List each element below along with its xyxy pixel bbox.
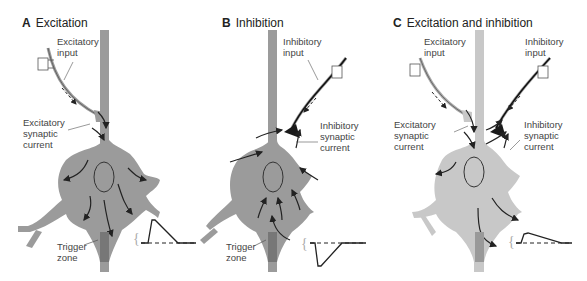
panel-b-title-text: Inhibition bbox=[236, 16, 284, 30]
cell-body bbox=[28, 140, 160, 272]
inhibitory-current-label: Inhibitory synaptic current bbox=[320, 120, 359, 153]
trigger-zone-label: Trigger zone bbox=[57, 241, 87, 263]
inhibitory-input-label: Inhibitory input bbox=[283, 36, 322, 58]
panel-b-title: BInhibition bbox=[222, 16, 284, 30]
panel-c-title: CExcitation and inhibition bbox=[393, 16, 533, 30]
inhibitory-input-label: Inhibitory input bbox=[525, 36, 564, 58]
electrode-icon bbox=[332, 66, 342, 78]
panel-c-title-text: Excitation and inhibition bbox=[407, 16, 533, 30]
svg-text:{: { bbox=[301, 236, 308, 251]
panel-b-letter: B bbox=[222, 16, 231, 30]
excitatory-input-label: Excitatory input bbox=[57, 36, 99, 58]
summed-trace: { bbox=[508, 233, 572, 249]
epsp-trace: { bbox=[133, 220, 196, 246]
panel-a-title: AExcitation bbox=[22, 16, 88, 30]
excitatory-current-label: Excitatory synaptic current bbox=[23, 117, 65, 150]
cell-body bbox=[206, 140, 314, 272]
excitatory-current-label: Excitatory synaptic current bbox=[394, 119, 436, 152]
panel-a-neuron: { bbox=[18, 30, 196, 272]
panel-a-letter: A bbox=[22, 16, 31, 30]
inhibitory-current-label: Inhibitory synaptic current bbox=[524, 119, 563, 152]
svg-text:{: { bbox=[133, 231, 140, 246]
excitatory-input-label: Excitatory input bbox=[424, 36, 466, 58]
panel-c-letter: C bbox=[393, 16, 402, 30]
svg-text:{: { bbox=[508, 234, 515, 249]
ipsp-trace: { bbox=[301, 236, 366, 266]
electrode-icon bbox=[410, 64, 420, 76]
electrode-icon bbox=[538, 66, 548, 78]
panel-a-title-text: Excitation bbox=[36, 16, 88, 30]
cell-body bbox=[412, 140, 522, 272]
trigger-zone-label: Trigger zone bbox=[226, 241, 256, 263]
